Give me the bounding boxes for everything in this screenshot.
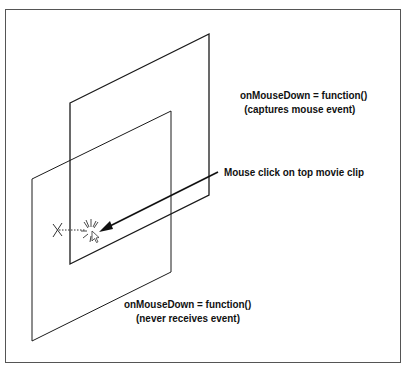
top-clip-handler-code: onMouseDown = function() xyxy=(240,88,367,102)
top-clip-handler-note: (captures mouse event) xyxy=(240,102,367,116)
bottom-clip-handler-note: (never receives event) xyxy=(124,311,251,325)
top-movie-clip-plane xyxy=(70,34,209,264)
bottom-clip-handler-label: onMouseDown = function() (never receives… xyxy=(124,297,251,325)
cursor-icon xyxy=(92,231,99,243)
arrow-icon xyxy=(99,172,218,232)
top-clip-handler-label: onMouseDown = function() (captures mouse… xyxy=(240,88,367,116)
bottom-clip-handler-code: onMouseDown = function() xyxy=(124,297,251,311)
click-label: Mouse click on top movie clip xyxy=(224,165,364,179)
x-mark-icon xyxy=(53,223,62,237)
